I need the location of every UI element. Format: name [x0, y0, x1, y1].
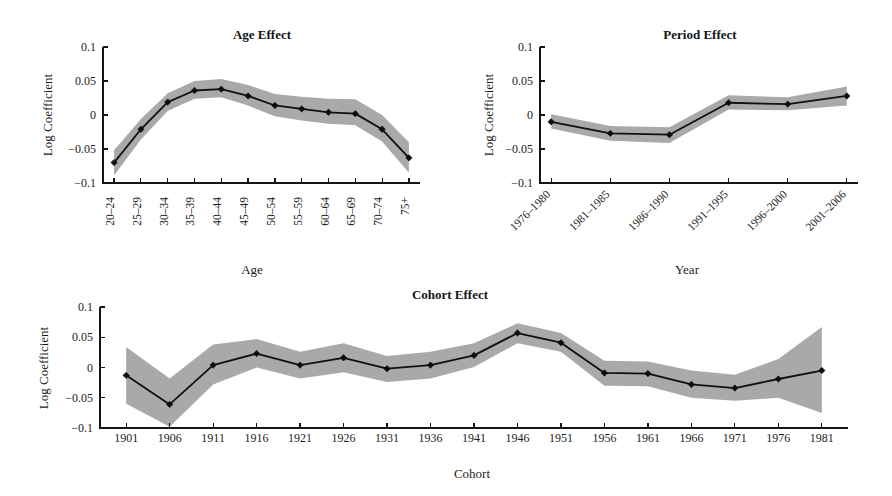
cohort-effect-xtick-label: 1971 — [723, 431, 747, 445]
cohort-effect-xlabel: Cohort — [454, 466, 491, 481]
age-effect-ytick-label: 0 — [90, 108, 96, 122]
age-effect-xtick-label: 30–34 — [158, 197, 170, 226]
cohort-effect-xtick-label: 1926 — [332, 431, 356, 445]
age-effect-xtick-label: 55–59 — [292, 197, 304, 226]
age-effect-xtick-label: 25–29 — [131, 197, 143, 226]
cohort-effect-ytick-label: 0.1 — [78, 300, 93, 314]
cohort-effect-xtick-label: 1906 — [158, 431, 182, 445]
cohort-effect-xtick-label: 1921 — [288, 431, 312, 445]
cohort-effect-xtick-label: 1931 — [375, 431, 399, 445]
age-effect-xtick-label: 75+ — [399, 197, 411, 215]
age-effect-xtick-label: 65–69 — [345, 197, 357, 226]
period-effect-xlabel: Year — [675, 262, 700, 277]
period-effect-ytick-label: 0 — [527, 108, 533, 122]
age-effect-ytick-label: −0.1 — [74, 176, 96, 190]
age-effect-xtick-label: 60–64 — [319, 197, 331, 226]
cohort-effect-xtick-label: 1961 — [636, 431, 660, 445]
cohort-effect-title: Cohort Effect — [412, 287, 489, 302]
period-effect-ytick-label: 0.1 — [518, 40, 533, 54]
age-effect-xtick-label: 70–74 — [372, 197, 384, 226]
age-effect-xtick-label: 50–54 — [265, 197, 277, 226]
age-effect-xtick-label: 35–39 — [184, 197, 196, 226]
age-effect-xlabel: Age — [241, 262, 263, 277]
cohort-effect-xtick-label: 1981 — [810, 431, 834, 445]
cohort-effect-xtick-label: 1911 — [201, 431, 225, 445]
period-effect-ytick-label: −0.1 — [511, 176, 533, 190]
age-effect-xtick-label: 20–24 — [104, 197, 116, 226]
cohort-effect-ytick-label: 0.05 — [72, 330, 93, 344]
cohort-effect-xtick-label: 1901 — [114, 431, 138, 445]
cohort-effect-xtick-label: 1951 — [549, 431, 573, 445]
cohort-effect-xtick-label: 1966 — [679, 431, 703, 445]
cohort-effect-xtick-label: 1936 — [419, 431, 443, 445]
period-effect-ylabel: Log Coefficient — [481, 73, 496, 156]
figure-background — [0, 0, 892, 496]
age-effect-ylabel: Log Coefficient — [40, 73, 55, 156]
cohort-effect-xtick-label: 1946 — [505, 431, 529, 445]
period-effect-title: Period Effect — [663, 27, 737, 42]
cohort-effect-ytick-label: 0 — [87, 361, 93, 375]
age-effect-xtick-label: 45–49 — [238, 197, 250, 226]
cohort-effect-xtick-label: 1976 — [766, 431, 790, 445]
age-effect-xtick-label: 40–44 — [211, 197, 223, 226]
cohort-effect-ylabel: Log Coefficient — [36, 326, 51, 409]
cohort-effect-xtick-label: 1941 — [462, 431, 486, 445]
cohort-effect-xtick-label: 1916 — [245, 431, 269, 445]
age-effect-ytick-label: −0.05 — [68, 142, 96, 156]
age-effect-ytick-label: 0.05 — [75, 74, 96, 88]
cohort-effect-ytick-label: −0.05 — [65, 391, 93, 405]
period-effect-ytick-label: −0.05 — [505, 142, 533, 156]
age-period-cohort-figure: Age Effect Log Coefficient Age −0.1−0.05… — [0, 0, 892, 496]
cohort-effect-ytick-label: −0.1 — [71, 421, 93, 435]
cohort-effect-xtick-label: 1956 — [592, 431, 616, 445]
age-effect-ytick-label: 0.1 — [81, 40, 96, 54]
age-effect-title: Age Effect — [233, 27, 292, 42]
period-effect-ytick-label: 0.05 — [512, 74, 533, 88]
